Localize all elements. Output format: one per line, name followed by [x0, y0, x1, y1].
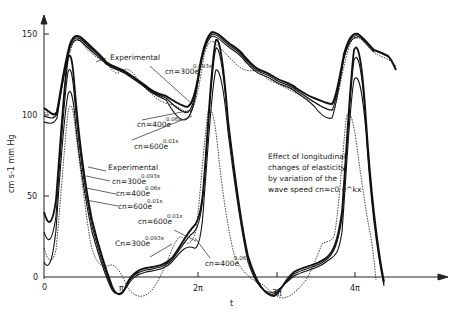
x-tick-4pi: 4π — [350, 284, 360, 293]
flow-experimental-curve — [44, 106, 376, 298]
y-axis-label: cm s-1 mm Hg — [7, 134, 16, 193]
label-flow-400: cn=400e 0.06x — [116, 185, 161, 198]
chart-figure: 150 100 50 0 0 π 2π 3π 4π t cm s-1 mm Hg… — [0, 0, 457, 310]
svg-text:0.01x: 0.01x — [163, 138, 179, 144]
label-pressure-experimental: Experimental — [110, 53, 160, 62]
label-flow-400-mid: cn=400e 0.06x — [205, 255, 250, 268]
svg-text:0.06x: 0.06x — [234, 255, 250, 261]
annotation-line-1: Effect of longitudinal — [268, 152, 346, 161]
label-pressure-300: cn=300e 0.093x — [165, 63, 213, 76]
label-flow-300-mid: Cn=300e 0.093x — [115, 235, 165, 248]
svg-text:0.06x: 0.06x — [166, 116, 182, 122]
y-tick-0: 0 — [33, 273, 38, 282]
label-flow-experimental: Experimental — [108, 163, 158, 172]
annotation-line-3: by variation of the — [268, 174, 337, 183]
svg-text:0.093x: 0.093x — [145, 235, 165, 241]
svg-text:0.01x: 0.01x — [147, 198, 163, 204]
y-tick-50: 50 — [27, 192, 37, 201]
label-pressure-600: cn=600e 0.01x — [134, 138, 179, 151]
annotation-line-4: wave speed cn=c0 e^kx — [268, 185, 362, 194]
svg-text:0.093x: 0.093x — [193, 63, 213, 69]
annotation-line-2: changes of elasticity — [268, 163, 346, 172]
y-tick-150: 150 — [22, 30, 37, 39]
y-tick-100: 100 — [22, 111, 37, 120]
x-tick-0: 0 — [42, 283, 47, 292]
svg-text:0.093x: 0.093x — [141, 173, 161, 179]
x-tick-2pi: 2π — [193, 284, 203, 293]
label-flow-600-mid: cn=600e 0.01x — [138, 213, 183, 226]
annotation-block: Effect of longitudinal changes of elasti… — [268, 152, 362, 194]
x-axis-label: t — [230, 299, 233, 308]
svg-text:0.06x: 0.06x — [145, 185, 161, 191]
svg-text:0.01x: 0.01x — [167, 213, 183, 219]
chart-svg: 150 100 50 0 0 π 2π 3π 4π t cm s-1 mm Hg… — [0, 0, 457, 310]
label-flow-600: cn=600e 0.01x — [118, 198, 163, 211]
